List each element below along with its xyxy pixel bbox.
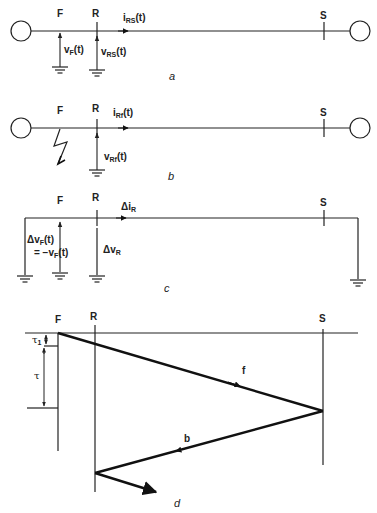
backward-wave-path [95,411,323,473]
panel-d: F R S τ1 τ f b d [25,311,358,509]
ground-icon [17,276,33,282]
ground-icon [52,67,68,73]
panel-b-caption: b [168,170,174,182]
panel-a: F R S iRS(t) vF(t) vRS(t) a [11,8,370,82]
traveling-wave-diagram: F R S iRS(t) vF(t) vRS(t) a F R S iRf(t) [0,0,377,513]
ground-icon [52,273,68,279]
node-R-label: R [92,8,100,19]
node-S-label: S [320,197,327,208]
ground-icon [350,280,366,286]
dvF-equals-label: = −vF(t) [34,247,68,259]
node-F-label: F [57,195,63,206]
delta-iR-label: ΔiR [121,201,136,213]
dvR-label: ΔvR [103,244,121,256]
source-right-icon [350,21,370,41]
backward-wave-label: b [184,433,190,444]
panel-b: F R S iRf(t) vRf(t) b [11,103,370,182]
current-iRS-label: iRS(t) [123,12,146,24]
vRf-label: vRf(t) [104,151,127,163]
tau-label: τ [34,370,40,381]
node-S-label: S [319,313,326,324]
reflected-wave-path [95,473,156,492]
panel-c-caption: c [164,282,170,294]
node-F-label: F [57,8,63,19]
node-R-label: R [92,103,100,114]
node-R-label: R [92,192,100,203]
source-right-icon [350,118,370,138]
current-iRf-label: iRf(t) [113,107,133,119]
dvF-label: ΔvF(t) [27,234,54,246]
node-S-label: S [320,10,327,21]
source-left-icon [11,118,31,138]
panel-c: F R S ΔiR ΔvF(t) = −vF(t) ΔvR c [17,192,366,294]
node-F-label: F [55,314,61,325]
vF-label: vF(t) [64,44,84,56]
panel-d-caption: d [174,497,181,509]
ground-icon [89,276,105,282]
forward-wave-path [58,333,323,411]
ground-icon [89,170,105,176]
forward-wave-label: f [242,365,246,376]
panel-a-caption: a [169,70,175,82]
node-F-label: F [57,105,63,116]
node-S-label: S [320,107,327,118]
ground-icon [89,70,105,76]
tau1-label: τ1 [32,334,42,346]
vRS-label: vRS(t) [101,46,126,58]
source-left-icon [11,21,31,41]
node-R-label: R [90,311,98,322]
fault-arrowhead-icon [58,156,65,164]
